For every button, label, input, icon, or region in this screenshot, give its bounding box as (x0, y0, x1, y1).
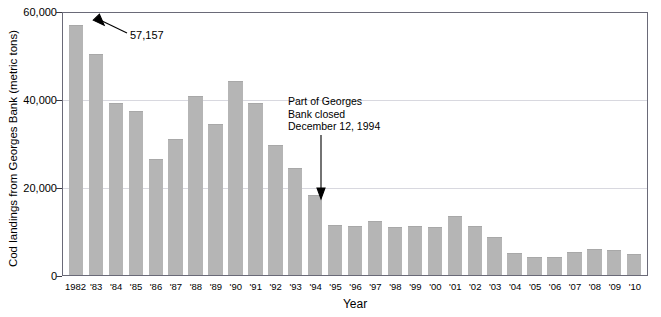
bar-06 (547, 257, 561, 275)
closure-note-line-2: Bank closed (288, 108, 380, 121)
bar-90 (228, 81, 242, 275)
x-tick-label-98: '98 (385, 280, 405, 296)
y-tick-mark-0 (56, 276, 62, 277)
closure-note-line-3: December 12, 1994 (288, 120, 380, 133)
bar-94 (308, 195, 322, 275)
x-tick-label-99: '99 (405, 280, 425, 296)
x-tick-label-09: '09 (605, 280, 625, 296)
y-tick-label-40000: 40,000 (1, 95, 57, 106)
bar-slot (525, 13, 545, 275)
bar-88 (188, 96, 202, 275)
bar-99 (408, 226, 422, 275)
bar-89 (208, 124, 222, 275)
x-tick-label-1982: 1982 (65, 280, 86, 296)
bar-slot (425, 13, 445, 275)
bar-slot (226, 13, 246, 275)
bar-slot (485, 13, 505, 275)
bar-1982 (69, 25, 83, 275)
bar-02 (468, 226, 482, 275)
x-tick-label-93: '93 (286, 280, 306, 296)
bar-slot (245, 13, 265, 275)
bar-slot (146, 13, 166, 275)
bar-slot (365, 13, 385, 275)
x-tick-label-89: '89 (206, 280, 226, 296)
bar-slot (545, 13, 565, 275)
bars-layer (63, 13, 647, 275)
closure-note-line-1: Part of Georges (288, 95, 380, 108)
bar-98 (388, 227, 402, 275)
bar-slot (505, 13, 525, 275)
bar-slot (465, 13, 485, 275)
x-tick-label-95: '95 (326, 280, 346, 296)
bar-93 (288, 168, 302, 275)
bar-slot (206, 13, 226, 275)
x-tick-label-90: '90 (226, 280, 246, 296)
bar-slot (584, 13, 604, 275)
peak-value-callout-label: 57,157 (130, 29, 164, 42)
x-tick-label-94: '94 (306, 280, 326, 296)
cod-landings-bar-chart: Cod landings from Georges Bank (metric t… (0, 0, 661, 317)
bar-slot (385, 13, 405, 275)
bar-slot (66, 13, 86, 275)
x-tick-label-85: '85 (126, 280, 146, 296)
bar-84 (109, 103, 123, 275)
bar-slot (604, 13, 624, 275)
bar-86 (149, 159, 163, 275)
bar-09 (607, 250, 621, 275)
bar-slot (86, 13, 106, 275)
x-tick-label-96: '96 (346, 280, 366, 296)
bar-slot (624, 13, 644, 275)
bar-slot (325, 13, 345, 275)
y-tick-label-60000: 60,000 (1, 7, 57, 18)
y-tick-label-0: 0 (1, 271, 57, 282)
x-tick-label-03: '03 (485, 280, 505, 296)
x-tick-label-83: '83 (86, 280, 106, 296)
bar-slot (285, 13, 305, 275)
bar-slot (265, 13, 285, 275)
x-axis-title: Year (62, 297, 648, 311)
y-axis-title: Cod landings from Georges Bank (metric t… (4, 10, 22, 287)
x-axis-tick-labels: 1982'83'84'85'86'87'88'89'90'91'92'93'94… (62, 280, 648, 296)
bar-03 (487, 237, 501, 275)
plot-area (62, 12, 648, 276)
x-tick-label-01: '01 (445, 280, 465, 296)
x-tick-label-84: '84 (106, 280, 126, 296)
bar-00 (428, 227, 442, 275)
bar-08 (587, 249, 601, 275)
bar-slot (186, 13, 206, 275)
x-tick-label-97: '97 (365, 280, 385, 296)
bar-87 (168, 139, 182, 275)
bar-85 (129, 111, 143, 275)
bar-01 (448, 216, 462, 275)
closure-note: Part of Georges Bank closed December 12,… (288, 95, 380, 133)
bar-slot (345, 13, 365, 275)
x-tick-label-07: '07 (565, 280, 585, 296)
x-tick-label-86: '86 (146, 280, 166, 296)
x-tick-label-06: '06 (545, 280, 565, 296)
bar-slot (106, 13, 126, 275)
bar-05 (527, 257, 541, 275)
x-tick-label-88: '88 (186, 280, 206, 296)
bar-83 (89, 54, 103, 275)
x-tick-label-92: '92 (266, 280, 286, 296)
x-tick-label-04: '04 (505, 280, 525, 296)
bar-04 (507, 253, 521, 275)
bar-95 (328, 225, 342, 275)
x-tick-label-08: '08 (585, 280, 605, 296)
y-tick-label-20000: 20,000 (1, 183, 57, 194)
x-tick-label-10: '10 (625, 280, 645, 296)
bar-slot (445, 13, 465, 275)
bar-92 (268, 145, 282, 275)
bar-10 (627, 254, 641, 275)
x-tick-label-02: '02 (465, 280, 485, 296)
bar-97 (368, 221, 382, 275)
bar-91 (248, 103, 262, 275)
x-tick-label-91: '91 (246, 280, 266, 296)
bar-slot (166, 13, 186, 275)
bar-96 (348, 226, 362, 275)
bar-07 (567, 252, 581, 275)
x-tick-label-87: '87 (166, 280, 186, 296)
x-tick-label-05: '05 (525, 280, 545, 296)
x-tick-label-00: '00 (425, 280, 445, 296)
bar-slot (405, 13, 425, 275)
